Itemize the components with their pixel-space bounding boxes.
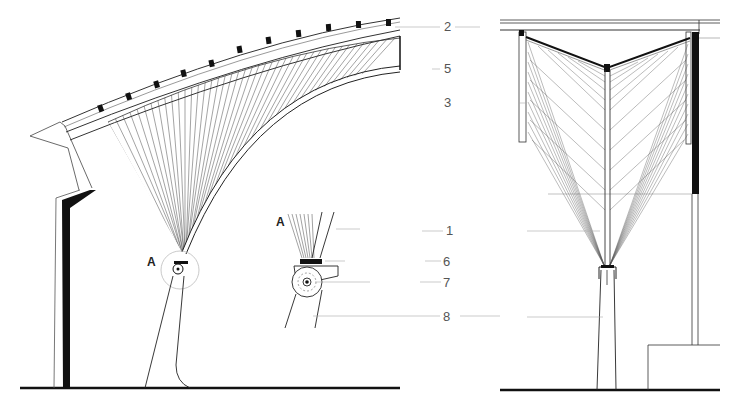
detail-a-marker-detail: A: [276, 216, 285, 228]
left-section-view: [20, 18, 400, 388]
architectural-drawing: [0, 0, 747, 416]
leader-lines: [313, 27, 500, 316]
callout-1: 1: [446, 224, 453, 237]
callout-8: 8: [443, 310, 450, 323]
arch-rib-outer: [186, 72, 400, 254]
callout-7: 7: [443, 276, 450, 289]
cable-fan-right-right: [610, 44, 688, 265]
detail-bearing-plate: [300, 259, 322, 264]
column-left-edge: [145, 276, 173, 388]
callout-2: 2: [444, 20, 451, 33]
detail-cables: [288, 214, 314, 258]
roof-beam-lower: [70, 36, 400, 140]
detail-rib-left: [312, 212, 322, 258]
right-wall-black: [692, 32, 699, 194]
wall-column: [62, 190, 96, 388]
column-cap: [599, 267, 616, 279]
bearing-plate: [174, 261, 188, 264]
detail-rib-right: [320, 212, 334, 258]
left-side-panel: [519, 32, 526, 142]
callout-6: 6: [443, 255, 450, 268]
detail-column-left: [285, 294, 296, 328]
pivot-pin: [177, 268, 180, 271]
right-section-view: [500, 20, 720, 390]
detail-pivot-pin: [305, 280, 309, 284]
detail-a-marker-main: A: [147, 256, 156, 268]
detail-a-view: [285, 212, 338, 328]
column-right-edge: [176, 276, 190, 388]
base-block: [648, 345, 720, 390]
cable-fan-right-left: [528, 42, 605, 265]
right-side-panel: [686, 32, 691, 144]
callout-5: 5: [444, 62, 451, 75]
right-column: [597, 270, 616, 390]
detail-column-right: [315, 290, 322, 328]
callout-3: 3: [444, 96, 451, 109]
wall-upper-outline: [30, 122, 92, 190]
roof-beam-top2: [64, 22, 400, 127]
purlins: [97, 19, 391, 112]
